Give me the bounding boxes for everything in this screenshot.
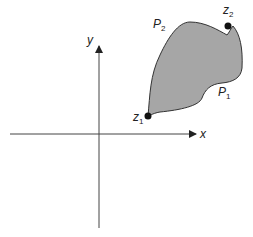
complex-plane-diagram: x y z1 z2 P1 P2 <box>0 0 253 237</box>
x-axis-label: x <box>199 127 207 141</box>
label-z2: z2 <box>222 3 234 19</box>
point-z1 <box>145 113 152 120</box>
label-z1: z1 <box>132 110 144 126</box>
point-z2 <box>225 23 232 30</box>
shaded-region <box>148 22 242 116</box>
label-P1: P1 <box>218 85 231 101</box>
label-P2: P2 <box>153 17 166 33</box>
y-axis-label: y <box>86 33 94 47</box>
